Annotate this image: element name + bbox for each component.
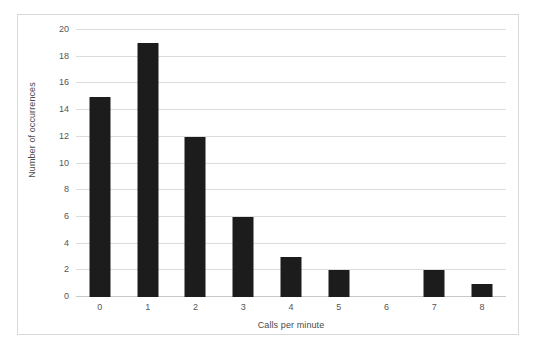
- bar-slot: 1: [124, 30, 172, 297]
- y-tick-label: 18: [59, 51, 69, 61]
- bar[interactable]: [89, 97, 110, 297]
- bar[interactable]: [185, 137, 206, 297]
- x-tick-label: 2: [193, 302, 198, 312]
- x-tick-label: 1: [145, 302, 150, 312]
- y-tick-label: 2: [64, 264, 69, 274]
- bar-slot: 2: [172, 30, 220, 297]
- bar[interactable]: [472, 284, 493, 297]
- y-tick-label: 8: [64, 184, 69, 194]
- chart-frame: Number of occurrences 02468101214161820 …: [17, 14, 519, 335]
- bar-slot: 0: [76, 30, 124, 297]
- y-tick-label: 4: [64, 238, 69, 248]
- y-tick-label: 16: [59, 77, 69, 87]
- x-tick-label: 8: [480, 302, 485, 312]
- bar[interactable]: [233, 217, 254, 297]
- x-tick-label: 4: [288, 302, 293, 312]
- y-tick-label: 10: [59, 158, 69, 168]
- x-tick-label: 3: [241, 302, 246, 312]
- x-tick-label: 6: [384, 302, 389, 312]
- y-tick-label: 14: [59, 104, 69, 114]
- y-tick-label: 12: [59, 131, 69, 141]
- plot-area: 02468101214161820 012345678: [76, 30, 506, 297]
- x-tick-label: 0: [97, 302, 102, 312]
- bar-slot: 6: [363, 30, 411, 297]
- bar[interactable]: [328, 270, 349, 297]
- bar[interactable]: [424, 270, 445, 297]
- bar[interactable]: [137, 43, 158, 297]
- x-axis-title: Calls per minute: [76, 320, 506, 330]
- y-axis-title: Number of occurrences: [27, 30, 37, 230]
- bar-slot: 5: [315, 30, 363, 297]
- y-tick-label: 6: [64, 211, 69, 221]
- bar-slot: 3: [219, 30, 267, 297]
- bar[interactable]: [280, 257, 301, 297]
- y-tick-label: 0: [64, 291, 69, 301]
- bar-slot: 7: [410, 30, 458, 297]
- bar-slot: 8: [458, 30, 506, 297]
- y-tick-label: 20: [59, 24, 69, 34]
- x-tick-label: 7: [432, 302, 437, 312]
- bars-layer: 012345678: [76, 30, 506, 297]
- bar-slot: 4: [267, 30, 315, 297]
- x-tick-label: 5: [336, 302, 341, 312]
